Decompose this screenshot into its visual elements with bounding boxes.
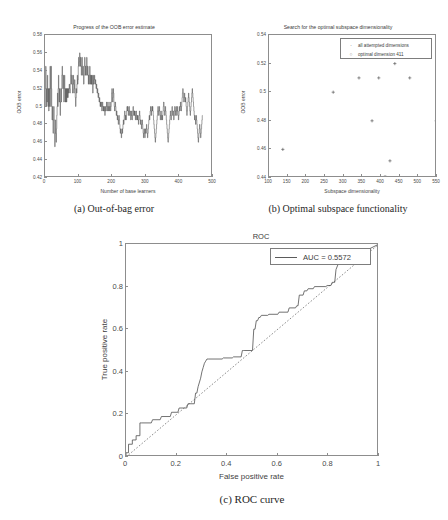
- chart-roc: ROC 00.20.40.60.81 00.20.40.60.81 False …: [84, 232, 420, 490]
- y-tickmark: [44, 52, 47, 53]
- chart-legend: · all attempted dimensions ○ optimal dim…: [340, 38, 432, 59]
- x-tick-label: 500: [413, 179, 421, 184]
- y-tickmark: [125, 243, 128, 244]
- x-tick-label: 1: [376, 459, 380, 468]
- x-tickmark: [436, 174, 437, 177]
- x-tickmark: [226, 453, 227, 456]
- caption-figure-a: (a) Out-of-bag error: [8, 203, 220, 214]
- y-tick-label: 0.52: [27, 85, 42, 90]
- y-tickmark: [268, 120, 271, 121]
- x-tick-label: 0.8: [322, 459, 332, 468]
- chart-title: Progress of the OOB error estimate: [8, 24, 220, 30]
- caption-figure-b: (b) Optimal subspace functionality: [232, 203, 444, 214]
- x-tickmark: [378, 453, 379, 456]
- y-tickmark: [125, 328, 128, 329]
- y-axis-title: OOB error: [240, 72, 246, 132]
- figure-panel-oob-error: Progress of the OOB error estimate 01002…: [8, 22, 220, 200]
- chart-optimal-subspace: Search for the optimal subspace dimensio…: [232, 22, 444, 200]
- x-tickmark: [176, 453, 177, 456]
- legend-entry-optimal-dimension: ○ optimal dimension 411: [344, 50, 428, 59]
- y-tickmark: [44, 88, 47, 89]
- y-tick-label: 0.4: [107, 366, 123, 375]
- y-tickmark: [44, 106, 47, 107]
- y-tickmark: [125, 413, 128, 414]
- legend-entry-auc: AUC = 0.5572: [275, 249, 366, 266]
- chart-title: ROC: [102, 232, 420, 241]
- dot-marker-icon: ·: [344, 41, 358, 50]
- y-tickmark: [44, 123, 47, 124]
- x-tickmark: [111, 174, 112, 177]
- x-tickmark: [399, 174, 400, 177]
- x-tick-label: 400: [376, 179, 384, 184]
- y-axis-title: OOB error: [16, 72, 22, 132]
- x-tick-label: 300: [339, 179, 347, 184]
- x-tick-label: 450: [395, 179, 403, 184]
- y-tick-label: 0.42: [27, 175, 42, 180]
- x-tickmark: [277, 453, 278, 456]
- y-axis-title: True positive rate: [100, 310, 109, 390]
- y-tickmark: [268, 34, 271, 35]
- x-tick-label: 350: [357, 179, 365, 184]
- x-tick-label: 0.2: [170, 459, 180, 468]
- x-tick-label: 500: [208, 179, 216, 184]
- y-tick-label: 0.5: [251, 89, 266, 94]
- y-tick-label: 0.46: [27, 139, 42, 144]
- y-tickmark: [125, 456, 128, 457]
- y-tickmark: [44, 141, 47, 142]
- x-tickmark: [145, 174, 146, 177]
- circle-marker-icon: ○: [344, 50, 358, 59]
- y-tick-label: 0.8: [107, 281, 123, 290]
- figure-panel-roc-curve: ROC 00.20.40.60.81 00.20.40.60.81 False …: [84, 232, 420, 490]
- x-tickmark: [417, 174, 418, 177]
- y-tickmark: [268, 63, 271, 64]
- y-tick-label: 0.54: [251, 32, 266, 37]
- chart-oob-progress: Progress of the OOB error estimate 01002…: [8, 22, 220, 200]
- y-tick-label: 0.44: [27, 157, 42, 162]
- plot-area: [44, 34, 212, 177]
- y-tick-label: 0.6: [107, 324, 123, 333]
- y-tick-label: 0.58: [27, 32, 42, 37]
- x-tickmark: [305, 174, 306, 177]
- x-tick-label: 100: [264, 179, 272, 184]
- legend-label: optimal dimension 411: [358, 52, 404, 57]
- x-tick-label: 100: [74, 179, 82, 184]
- y-tickmark: [268, 177, 271, 178]
- x-tick-label: 0.6: [272, 459, 282, 468]
- legend-label: all attempted dimensions: [358, 43, 409, 48]
- x-axis-title: Subspace dimensionality: [268, 188, 436, 194]
- y-tick-label: 0: [107, 452, 123, 461]
- caption-figure-c: (c) ROC curve: [84, 493, 420, 505]
- y-tickmark: [44, 159, 47, 160]
- x-axis-title: Number of base learners: [44, 188, 212, 194]
- x-tick-label: 300: [141, 179, 149, 184]
- x-tickmark: [287, 174, 288, 177]
- x-tick-label: 0.4: [221, 459, 231, 468]
- legend-entry-all-dimensions: · all attempted dimensions: [344, 41, 428, 50]
- y-tick-label: 0.44: [251, 175, 266, 180]
- oob-error-line: [45, 35, 212, 177]
- x-tickmark: [78, 174, 79, 177]
- y-tick-label: 0.2: [107, 409, 123, 418]
- figure-panel-optimal-subspace: Search for the optimal subspace dimensio…: [232, 22, 444, 200]
- y-tickmark: [44, 34, 47, 35]
- y-tickmark: [268, 148, 271, 149]
- y-tick-label: 0.48: [251, 117, 266, 122]
- y-tick-label: 0.48: [27, 121, 42, 126]
- y-tick-label: 0.46: [251, 146, 266, 151]
- y-tickmark: [44, 177, 47, 178]
- roc-curve-lines: [126, 244, 378, 456]
- x-tick-label: 400: [175, 179, 183, 184]
- y-tick-label: 0.54: [27, 67, 42, 72]
- x-tickmark: [178, 174, 179, 177]
- x-tickmark: [327, 453, 328, 456]
- x-tick-label: 150: [283, 179, 291, 184]
- x-tick-label: 550: [432, 179, 440, 184]
- y-tick-label: 0.5: [27, 103, 42, 108]
- y-tickmark: [44, 70, 47, 71]
- line-marker-icon: [275, 257, 297, 258]
- x-tickmark: [212, 174, 213, 177]
- x-tick-label: 250: [320, 179, 328, 184]
- x-tickmark: [361, 174, 362, 177]
- x-tick-label: 0: [43, 179, 46, 184]
- y-tickmark: [125, 371, 128, 372]
